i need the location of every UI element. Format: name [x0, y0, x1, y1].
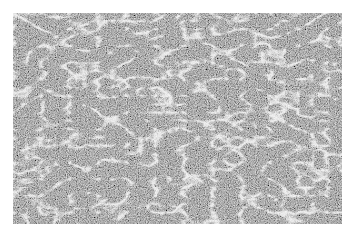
tissue-texture [13, 13, 342, 224]
histology-image [13, 13, 342, 224]
